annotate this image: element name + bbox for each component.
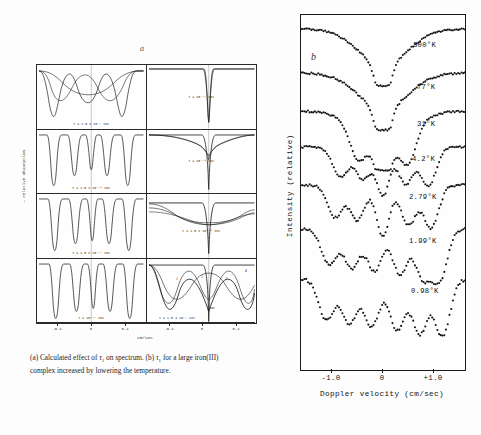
panel-b-ticklabel-neg1: -1.0 (322, 374, 341, 382)
panel-b-experimental-spectra: Intensity (relative) b 300°K 77°K 31°K 4… (286, 14, 476, 424)
panel-a-ticklabel-6: 0.4 (233, 327, 240, 331)
panel-a-label: a (140, 44, 145, 53)
figure-root: a — relative absorption τ = 1.5 x 10⁻⁹ s… (0, 0, 481, 435)
tau-annotation-r3c1: τ = 1.5 x 10⁻¹¹ sec (72, 251, 110, 255)
tau-annotation-r1c2: τ = 10⁻¹¹ sec (188, 95, 214, 99)
panel-b-y-axis-label: Intensity (relative) (286, 134, 294, 237)
panel-a-ticklabel-5: 0 (201, 327, 203, 331)
tau-annotation-r2c1: τ = 1.5 x 10⁻¹⁰ sec (72, 186, 110, 190)
panel-a-ticklabel-4: -0.4 (164, 327, 173, 331)
panel-b-ticklabel-pos1: +1.0 (424, 374, 443, 382)
panel-b-tick-zero (382, 369, 383, 373)
peak-label-2: 2 (201, 275, 203, 279)
panel-b-ticklabel-zero: 0 (380, 374, 385, 382)
temp-label-1.99K: 1.99°K (409, 237, 437, 245)
temp-label-31K: 31°K (417, 120, 435, 128)
subpanel-r4c1: τ = 10⁻¹² sec (37, 259, 147, 324)
temp-label-2.79K: 2.79°K (409, 193, 437, 201)
subpanel-r2c2: τ = 10⁻¹⁰ sec (147, 130, 257, 195)
subpanel-r3c2: τ = 1.5 x 10⁻¹⁰ sec (147, 194, 257, 259)
panel-b-tick-neg1 (331, 369, 332, 373)
panel-b-plot-frame: b 300°K 77°K 31°K 4.2°K 2.79°K 1.99°K 0.… (300, 14, 466, 371)
caption-part-1: (a) Calculated effect of (30, 353, 99, 362)
spectrum-curve-r1c1 (37, 65, 146, 129)
panel-a-tick-3 (125, 322, 126, 326)
panel-a-y-axis-label: — relative absorption (22, 150, 26, 203)
panel-b-data-points (301, 15, 465, 370)
peak-label-sum: sum (209, 306, 215, 310)
panel-a-calculated-spectra: a — relative absorption τ = 1.5 x 10⁻⁹ s… (12, 30, 274, 350)
peak-label-1: 1 (176, 277, 178, 281)
panel-b-x-axis-label: Doppler velocity (cm/sec) (320, 390, 444, 398)
panel-a-ticklabel-3: 0.4 (122, 327, 129, 331)
panel-a-subpanel-grid: τ = 1.5 x 10⁻⁹ sec τ = 10⁻¹¹ sec τ = 1.5… (36, 64, 257, 324)
subpanel-r2c1: τ = 1.5 x 10⁻¹⁰ sec (37, 130, 147, 195)
panel-a-tick-4 (169, 322, 170, 326)
subpanel-r1c2: τ = 10⁻¹¹ sec (147, 65, 257, 130)
panel-a-x-axis (36, 322, 255, 323)
caption-part-3: for a large (161, 353, 193, 362)
subpanel-r4c2: 1 2 3 4 sum τ = 1.5 x 10⁻⁹ sec (147, 259, 257, 324)
panel-a-x-axis-label: cm/sec (137, 335, 153, 340)
spectrum-curve-r3c2 (147, 194, 257, 258)
panel-a-ticklabel-2: 0 (90, 327, 92, 331)
spectrum-curve-r4c2 (147, 259, 257, 324)
caption-part-2: on spectrum. (b) (104, 353, 156, 362)
panel-a-tick-1 (57, 322, 58, 326)
panel-a-tick-2 (91, 322, 92, 326)
temp-label-0.98K: 0.98°K (411, 287, 439, 295)
panel-a-ticklabel-1: -0.4 (52, 327, 61, 331)
panel-b-tick-pos1 (433, 369, 434, 373)
spectrum-curve-r3c1 (37, 194, 146, 258)
temp-label-4.2K: 4.2°K (412, 155, 435, 163)
tau-annotation-r4c1: τ = 10⁻¹² sec (78, 316, 104, 320)
tau-annotation-r3c2: τ = 1.5 x 10⁻¹⁰ sec (182, 229, 220, 233)
tau-annotation-r4c2: τ = 1.5 x 10⁻⁹ sec (159, 316, 195, 320)
panel-a-tick-5 (202, 322, 203, 326)
panel-b-label: b (311, 51, 316, 62)
peak-label-4: 4 (245, 269, 247, 273)
spectrum-curve-r2c1 (37, 130, 146, 194)
peak-label-3: 3 (225, 277, 227, 281)
panel-a-tick-6 (236, 322, 237, 326)
figure-caption: (a) Calculated effect of τ1 on spectrum.… (30, 352, 245, 377)
tau-annotation-r1c1: τ = 1.5 x 10⁻⁹ sec (73, 122, 109, 126)
subpanel-r3c1: τ = 1.5 x 10⁻¹¹ sec (37, 194, 147, 259)
tau-annotation-r2c2: τ = 10⁻¹⁰ sec (188, 159, 214, 163)
temp-label-77K: 77°K (417, 83, 435, 91)
spectrum-curve-r4c1 (37, 259, 146, 324)
subpanel-r1c1: τ = 1.5 x 10⁻⁹ sec (37, 65, 147, 130)
temp-label-300K: 300°K (413, 41, 436, 49)
